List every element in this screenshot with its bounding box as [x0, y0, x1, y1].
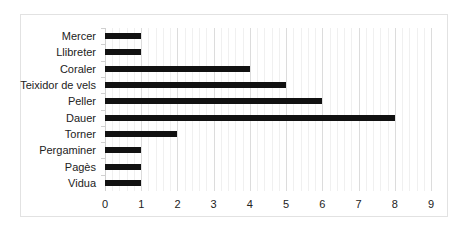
bar[interactable]	[105, 33, 141, 39]
x-tick-label: 4	[240, 198, 260, 210]
gridline-minor	[409, 28, 410, 191]
gridline-minor	[337, 28, 338, 191]
gridline-minor	[315, 28, 316, 191]
gridline-major	[250, 28, 251, 191]
category-label: Pagès	[65, 161, 96, 173]
y-tick	[101, 142, 105, 143]
gridline-minor	[264, 28, 265, 191]
bar[interactable]	[105, 147, 141, 153]
gridline-minor	[192, 28, 193, 191]
gridline-major	[214, 28, 215, 191]
category-label: Dauer	[66, 112, 96, 124]
gridline-minor	[308, 28, 309, 191]
y-tick	[101, 175, 105, 176]
x-tick-label: 0	[95, 198, 115, 210]
y-tick	[101, 110, 105, 111]
gridline-major	[141, 28, 142, 191]
bar[interactable]	[105, 66, 250, 72]
gridline-minor	[366, 28, 367, 191]
y-tick	[101, 93, 105, 94]
category-label: Llibreter	[56, 46, 96, 58]
y-tick	[101, 77, 105, 78]
gridline-minor	[148, 28, 149, 191]
x-tick-label: 5	[276, 198, 296, 210]
bar[interactable]	[105, 82, 286, 88]
gridline-minor	[293, 28, 294, 191]
gridline-major	[286, 28, 287, 191]
category-label: Torner	[65, 128, 96, 140]
x-tick-label: 3	[204, 198, 224, 210]
y-tick	[101, 61, 105, 62]
category-label: Vidua	[68, 177, 96, 189]
gridline-minor	[330, 28, 331, 191]
x-tick-label: 2	[167, 198, 187, 210]
category-label: Peller	[68, 95, 96, 107]
bar[interactable]	[105, 98, 322, 104]
gridline-minor	[243, 28, 244, 191]
gridline-minor	[199, 28, 200, 191]
y-tick	[101, 28, 105, 29]
gridline-minor	[279, 28, 280, 191]
bar[interactable]	[105, 115, 395, 121]
x-tick-label: 8	[385, 198, 405, 210]
x-tick-label: 7	[349, 198, 369, 210]
gridline-minor	[417, 28, 418, 191]
gridline-minor	[351, 28, 352, 191]
gridline-major	[177, 28, 178, 191]
category-label: Pergaminer	[39, 144, 96, 156]
gridline-minor	[170, 28, 171, 191]
plot-area	[105, 28, 431, 191]
category-label: Teixidor de vels	[20, 79, 96, 91]
category-label: Mercer	[62, 30, 96, 42]
bar[interactable]	[105, 180, 141, 186]
gridline-minor	[156, 28, 157, 191]
gridline-minor	[228, 28, 229, 191]
x-tick-label: 9	[421, 198, 441, 210]
gridline-minor	[424, 28, 425, 191]
x-tick-label: 6	[312, 198, 332, 210]
y-tick	[101, 44, 105, 45]
bar[interactable]	[105, 131, 177, 137]
gridline-minor	[301, 28, 302, 191]
gridline-major	[431, 28, 432, 191]
gridline-minor	[221, 28, 222, 191]
x-tick-label: 1	[131, 198, 151, 210]
gridline-minor	[235, 28, 236, 191]
gridline-minor	[380, 28, 381, 191]
gridline-minor	[257, 28, 258, 191]
gridline-minor	[163, 28, 164, 191]
gridline-minor	[185, 28, 186, 191]
gridline-major	[359, 28, 360, 191]
gridline-major	[322, 28, 323, 191]
bar[interactable]	[105, 164, 141, 170]
gridline-minor	[402, 28, 403, 191]
gridline-minor	[206, 28, 207, 191]
gridline-minor	[388, 28, 389, 191]
gridline-major	[395, 28, 396, 191]
gridline-minor	[344, 28, 345, 191]
bar[interactable]	[105, 49, 141, 55]
y-tick	[101, 158, 105, 159]
y-tick	[101, 126, 105, 127]
gridline-minor	[272, 28, 273, 191]
gridline-minor	[373, 28, 374, 191]
category-label: Coraler	[60, 63, 96, 75]
